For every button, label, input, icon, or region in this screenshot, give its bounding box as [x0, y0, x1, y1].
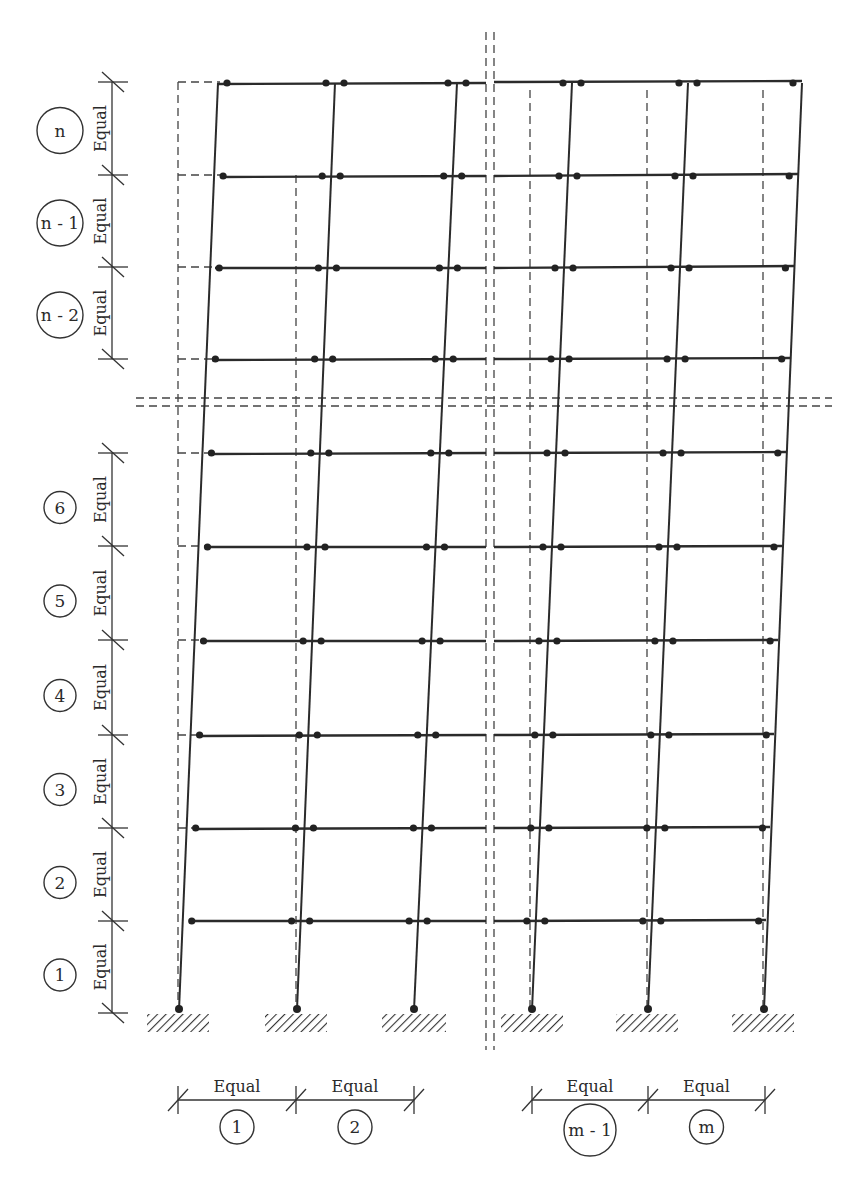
bay-dim-text: Equal	[683, 1077, 730, 1096]
svg-text:m: m	[698, 1117, 714, 1137]
svg-text:3: 3	[55, 780, 66, 800]
svg-text:m - 1: m - 1	[568, 1120, 612, 1140]
support-4	[501, 1014, 563, 1032]
bay-dim-text: Equal	[332, 1077, 379, 1096]
bay-label-m-1: m - 1	[564, 1104, 616, 1156]
support-1	[147, 1014, 209, 1032]
bay-dimensions: Equal1Equal2Equalm - 1Equalm	[168, 1077, 775, 1156]
support-3	[382, 1014, 446, 1032]
beams	[190, 81, 802, 921]
bay-label-2: 2	[338, 1110, 372, 1144]
story-label-n: n	[37, 108, 83, 154]
story-dim-text: Equal	[91, 290, 110, 337]
story-dim-text: Equal	[91, 105, 110, 152]
bay-label-1: 1	[220, 1110, 254, 1144]
svg-text:n - 2: n - 2	[41, 305, 79, 325]
story-label-2: 2	[44, 867, 76, 899]
plastic-hinges	[188, 79, 796, 924]
bay-dim-text: Equal	[567, 1077, 614, 1096]
break-lines	[136, 32, 832, 1050]
story-dim-text: Equal	[91, 664, 110, 711]
story-dim-text: Equal	[91, 944, 110, 991]
story-dim-text: Equal	[91, 758, 110, 805]
story-label-n-2: n - 2	[37, 292, 83, 338]
svg-text:6: 6	[55, 498, 66, 518]
story-dim-text: Equal	[91, 476, 110, 523]
svg-text:2: 2	[350, 1117, 361, 1137]
story-label-3: 3	[44, 774, 76, 806]
svg-text:2: 2	[55, 873, 66, 893]
story-dim-text: Equal	[91, 851, 110, 898]
svg-text:4: 4	[55, 686, 66, 706]
story-label-n-1: n - 1	[37, 200, 83, 246]
svg-text:1: 1	[55, 965, 66, 985]
svg-text:1: 1	[232, 1117, 243, 1137]
story-label-6: 6	[44, 492, 76, 524]
bay-dim-text: Equal	[214, 1077, 261, 1096]
story-dimensions: nEqualn - 1Equaln - 2Equal6Equal5Equal4E…	[37, 72, 128, 1023]
story-dim-text: Equal	[91, 198, 110, 245]
fixed-supports	[147, 1005, 794, 1032]
frame-svg: nEqualn - 1Equaln - 2Equal6Equal5Equal4E…	[0, 0, 862, 1193]
support-6	[732, 1014, 794, 1032]
support-2	[265, 1014, 327, 1032]
story-label-5: 5	[44, 585, 76, 617]
support-5	[616, 1014, 678, 1032]
bay-label-m: m	[690, 1110, 724, 1144]
svg-text:n - 1: n - 1	[41, 213, 79, 233]
frame-diagram: nEqualn - 1Equaln - 2Equal6Equal5Equal4E…	[0, 0, 862, 1193]
story-label-1: 1	[44, 959, 76, 991]
story-dim-text: Equal	[91, 570, 110, 617]
svg-text:5: 5	[55, 591, 66, 611]
story-label-4: 4	[44, 680, 76, 712]
svg-text:n: n	[55, 121, 66, 141]
